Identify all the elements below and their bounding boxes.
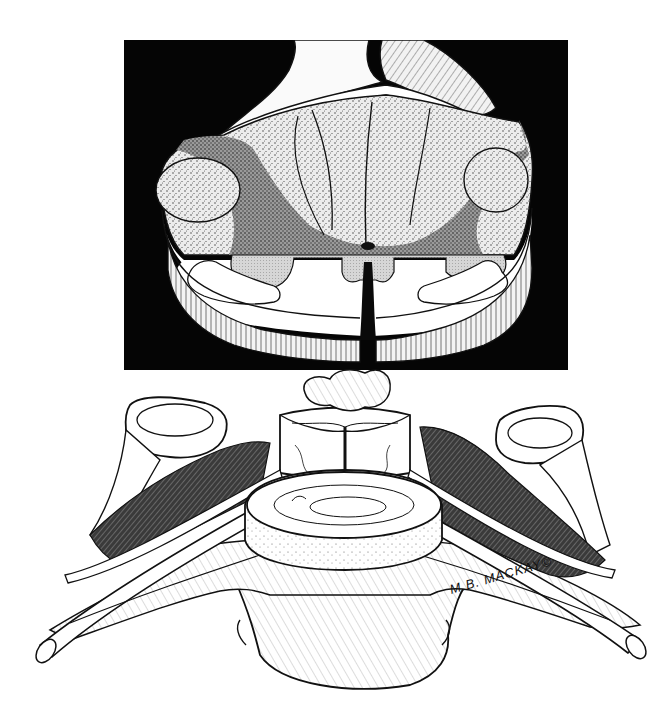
cervical-vertebra-figure: [30, 365, 650, 705]
vertebra-illustration: [30, 365, 650, 705]
spinal-cord-illustration: [124, 40, 568, 370]
spinal-cord-cross-section-figure: [124, 40, 568, 370]
cropped-header-text: [28, 0, 428, 3]
book-page: M.B. MACKAY©: [0, 0, 670, 727]
